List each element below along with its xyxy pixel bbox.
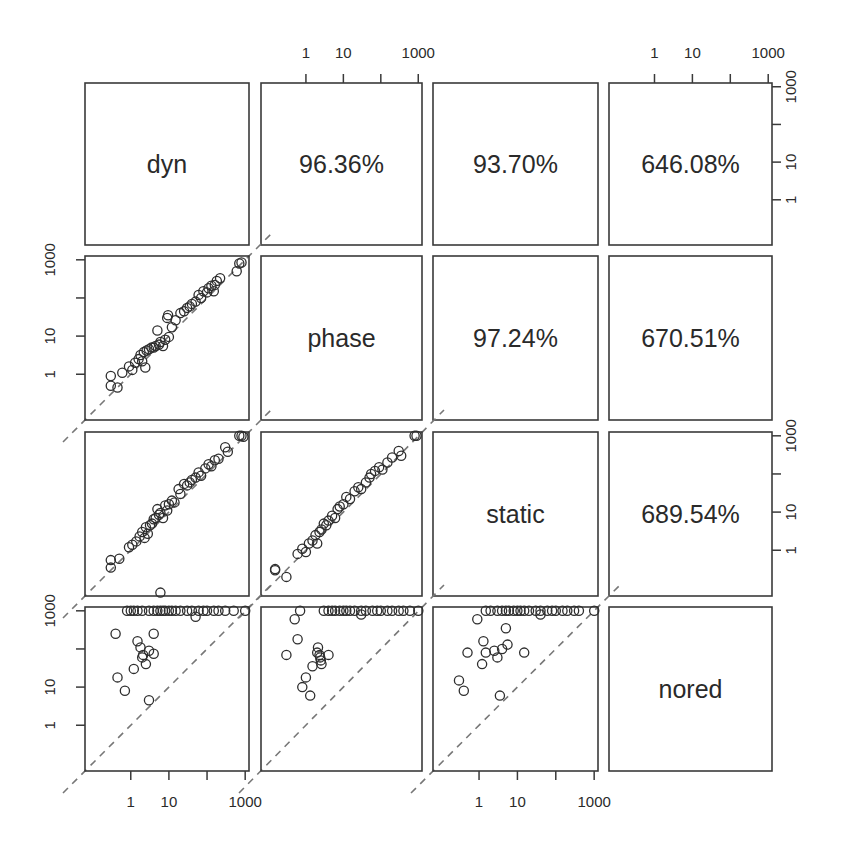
top-axis-nored: 1101000 — [650, 44, 785, 83]
tick-label: 1 — [782, 546, 799, 554]
panel-nored-phase — [239, 585, 444, 793]
panel-static-static: static — [433, 432, 598, 596]
panel-static-dyn — [63, 410, 271, 618]
tick-label: 1000 — [782, 419, 799, 452]
data-point — [459, 686, 468, 695]
tick-label: 10 — [161, 793, 178, 810]
data-point — [478, 660, 487, 669]
correlation-label: 96.36% — [299, 150, 384, 178]
data-point — [149, 629, 158, 638]
data-point — [153, 326, 162, 335]
points-static-vs-dyn — [106, 431, 248, 572]
tick-label: 1 — [475, 793, 483, 810]
panel-nored-nored: nored — [609, 607, 772, 771]
correlation-label: 646.08% — [641, 150, 740, 178]
data-point — [106, 371, 115, 380]
tick-label: 10 — [509, 793, 526, 810]
tick-label: 10 — [782, 504, 799, 521]
data-point — [185, 302, 194, 311]
data-point — [463, 648, 472, 657]
data-point — [144, 696, 153, 705]
data-point — [473, 615, 482, 624]
tick-label: 1 — [782, 196, 799, 204]
variable-label: nored — [659, 675, 723, 703]
points-nored-vs-phase — [282, 606, 423, 700]
data-point — [111, 629, 120, 638]
tick-label: 1 — [41, 370, 58, 378]
data-point — [293, 635, 302, 644]
tick-label: 1000 — [752, 44, 785, 61]
data-point — [167, 323, 176, 332]
points-nored-vs-dyn — [111, 588, 250, 705]
data-point — [282, 650, 291, 659]
tick-label: 10 — [782, 154, 799, 171]
panel-phase-phase: phase — [261, 256, 422, 420]
panel-dyn-dyn: dyn — [85, 83, 249, 245]
reference-line — [63, 585, 271, 793]
bottom-axis-static: 1101000 — [475, 771, 611, 810]
panel-nored-dyn — [63, 585, 271, 793]
data-point — [308, 662, 317, 671]
variable-label: phase — [307, 324, 375, 352]
left-axis-phase: 1101000 — [41, 243, 85, 378]
correlation-label: 97.24% — [473, 324, 558, 352]
data-point — [333, 505, 342, 514]
correlation-label: 670.51% — [641, 324, 740, 352]
data-point — [290, 615, 299, 624]
tick-label: 1 — [650, 44, 658, 61]
tick-label: 10 — [684, 44, 701, 61]
tick-label: 1000 — [402, 44, 435, 61]
points-phase-vs-dyn — [106, 258, 246, 392]
reference-line — [63, 234, 271, 442]
data-point — [501, 624, 510, 633]
data-point — [106, 381, 115, 390]
scatterplot-matrix-canvas: dynphasestaticnored96.36%93.70%646.08%97… — [0, 0, 851, 854]
tick-label: 1000 — [41, 243, 58, 276]
tick-label: 10 — [41, 328, 58, 345]
correlation-label: 93.70% — [473, 150, 558, 178]
data-point — [113, 673, 122, 682]
points-nored-vs-static — [454, 606, 598, 700]
variable-label: dyn — [147, 150, 187, 178]
data-point — [495, 691, 504, 700]
correlation-label: 689.54% — [641, 500, 740, 528]
points-static-vs-phase — [271, 431, 422, 581]
panel-nored-static — [411, 585, 620, 793]
data-point — [520, 648, 529, 657]
data-point — [282, 572, 291, 581]
scatterplot-matrix: dynphasestaticnored96.36%93.70%646.08%97… — [0, 0, 851, 854]
variable-label: static — [486, 500, 544, 528]
right-axis-static: 1101000 — [772, 419, 799, 554]
tick-label: 1 — [41, 721, 58, 729]
data-point — [129, 664, 138, 673]
data-point — [324, 650, 333, 659]
tick-label: 1000 — [577, 793, 610, 810]
data-point — [479, 637, 488, 646]
data-point — [113, 383, 122, 392]
tick-label: 1 — [302, 44, 310, 61]
reference-line — [411, 585, 620, 793]
data-point — [120, 686, 129, 695]
data-point — [298, 683, 307, 692]
tick-label: 1 — [127, 793, 135, 810]
tick-label: 1000 — [782, 70, 799, 103]
right-axis-dyn: 1101000 — [772, 70, 799, 204]
data-point — [301, 673, 310, 682]
tick-label: 1000 — [228, 793, 261, 810]
data-point — [481, 648, 490, 657]
reference-line — [239, 585, 444, 793]
left-axis-nored: 1101000 — [41, 594, 85, 729]
top-axis-phase: 1101000 — [302, 44, 435, 83]
panel-phase-dyn — [63, 234, 271, 442]
data-point — [306, 691, 315, 700]
tick-label: 1000 — [41, 594, 58, 627]
tick-label: 10 — [41, 679, 58, 696]
reference-line — [63, 410, 271, 618]
data-point — [454, 676, 463, 685]
tick-label: 10 — [335, 44, 352, 61]
